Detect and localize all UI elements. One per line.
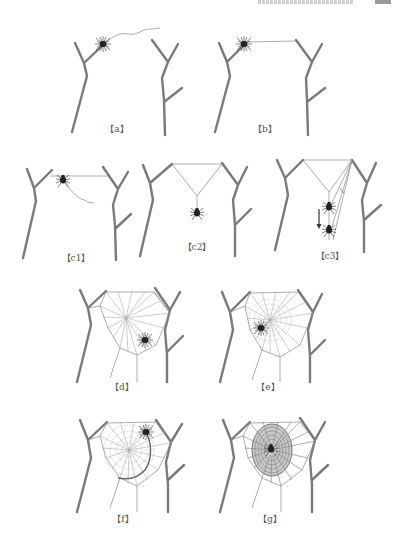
panel-label-f: 【f】 (112, 514, 133, 524)
panel-label-c2: 【c2】 (183, 242, 212, 252)
y-frame (172, 164, 222, 208)
right-twig (352, 160, 381, 252)
panel-e: 【e】 (220, 290, 325, 392)
trailing-thread (66, 182, 94, 203)
panel-c3: 【c3】 (275, 160, 381, 261)
panel-label-d: 【d】 (110, 382, 134, 392)
radial-lines (100, 292, 170, 355)
panel-c1: 【c1】 (23, 167, 131, 263)
right-twig (152, 40, 182, 135)
left-twig (77, 420, 107, 512)
panel-label-b: 【b】 (253, 124, 277, 134)
left-twig (77, 290, 106, 382)
spider-icon (137, 332, 153, 348)
panel-a: 【a】 (72, 28, 182, 135)
left-twig (220, 420, 250, 512)
right-twig (222, 163, 251, 256)
panel-label-c1: 【c1】 (62, 253, 91, 263)
spider-icon (190, 208, 204, 220)
left-twig (215, 43, 244, 132)
right-twig (296, 40, 325, 135)
panel-d: 【d】 (77, 288, 183, 392)
radial-lines (245, 292, 313, 357)
left-twig (275, 160, 303, 250)
panel-label-a: 【a】 (105, 124, 128, 134)
panel-label-g: 【g】 (258, 514, 282, 524)
web-construction-figure: 【a】 【b】 【c1】 【c2】 【c3】 (0, 0, 400, 547)
web-frame (230, 292, 313, 382)
bridge-line (246, 41, 296, 42)
panel-c2: 【c2】 (140, 163, 251, 256)
panel-label-e: 【e】 (256, 382, 279, 392)
arrow-head-icon (317, 224, 322, 229)
left-twig (23, 169, 52, 258)
panel-f: 【f】 (77, 420, 184, 524)
panel-b: 【b】 (215, 36, 325, 135)
panel-label-c3: 【c3】 (316, 251, 345, 261)
panel-g: 【g】 (220, 418, 328, 524)
right-twig (155, 288, 183, 382)
left-twig (72, 43, 103, 132)
left-twig (140, 164, 172, 256)
right-twig (103, 167, 131, 260)
